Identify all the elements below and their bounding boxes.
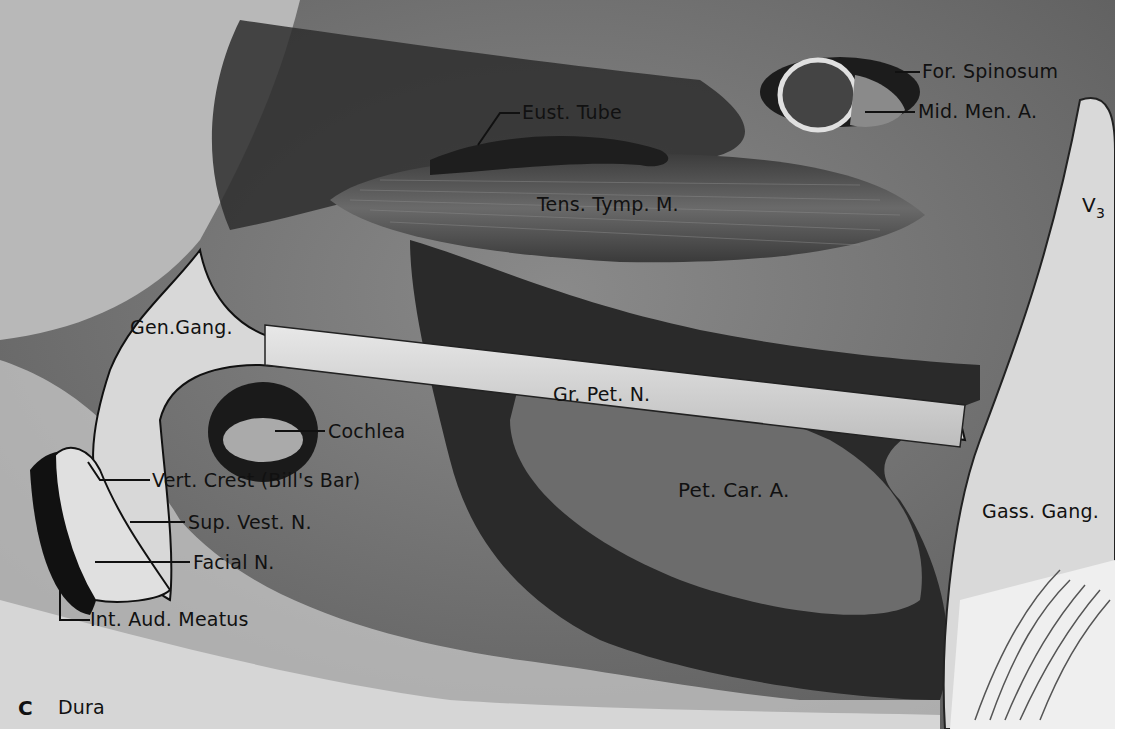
label-gen-gang: Gen.Gang. [130, 318, 233, 337]
label-int-aud-meatus: Int. Aud. Meatus [90, 610, 249, 629]
label-mid-men-a: Mid. Men. A. [918, 102, 1037, 121]
v3-main: V [1082, 193, 1096, 217]
label-vert-crest: Vert. Crest (Bill's Bar) [152, 471, 360, 490]
label-pet-car-a: Pet. Car. A. [678, 480, 790, 500]
v3-subscript: 3 [1096, 205, 1105, 221]
label-eust-tube: Eust. Tube [522, 103, 622, 122]
label-tens-tymp-m: Tens. Tymp. M. [537, 195, 679, 214]
label-gr-pet-n: Gr. Pet. N. [553, 385, 650, 404]
label-v3: V3 [1082, 195, 1105, 220]
anatomical-figure: For. Spinosum Mid. Men. A. Eust. Tube Te… [0, 0, 1132, 729]
label-facial-n: Facial N. [193, 553, 275, 572]
label-for-spinosum: For. Spinosum [922, 62, 1058, 81]
label-cochlea: Cochlea [328, 422, 405, 441]
label-sup-vest-n: Sup. Vest. N. [188, 513, 312, 532]
label-gass-gang: Gass. Gang. [982, 502, 1099, 521]
panel-caption: Dura [58, 698, 105, 717]
panel-letter: C [18, 696, 33, 720]
